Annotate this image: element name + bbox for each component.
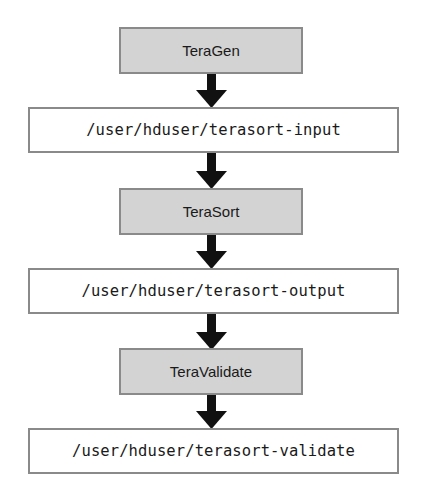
node-label: TeraSort: [183, 203, 240, 220]
teragen-node: TeraGen: [119, 27, 303, 74]
down-arrow-icon: [196, 74, 227, 108]
node-label: /user/hduser/terasort-input: [86, 121, 341, 139]
node-label: /user/hduser/terasort-validate: [72, 442, 355, 460]
node-label: /user/hduser/terasort-output: [81, 282, 345, 300]
node-label: TeraValidate: [170, 363, 252, 380]
down-arrow-icon: [196, 235, 227, 269]
node-label: TeraGen: [182, 42, 240, 59]
terasort-validate-path-node: /user/hduser/terasort-validate: [28, 428, 399, 474]
down-arrow-icon: [196, 314, 227, 348]
terasort-output-path-node: /user/hduser/terasort-output: [28, 268, 399, 314]
terasort-node: TeraSort: [119, 188, 303, 235]
terasort-input-path-node: /user/hduser/terasort-input: [28, 107, 399, 153]
down-arrow-icon: [196, 153, 227, 187]
down-arrow-icon: [196, 395, 227, 429]
teravalidate-node: TeraValidate: [119, 348, 303, 395]
